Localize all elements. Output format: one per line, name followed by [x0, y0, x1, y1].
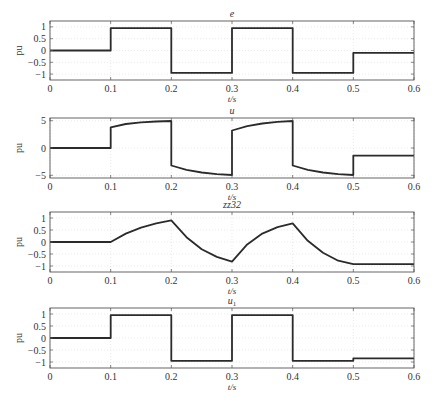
x-tick-label: 0.2	[165, 83, 178, 94]
y-tick-label: −0.5	[28, 345, 46, 356]
x-tick-label: 0.6	[408, 371, 421, 382]
y-tick-label: −1	[35, 261, 46, 272]
x-tick-label: 0.4	[286, 371, 299, 382]
x-tick-label: 0.5	[347, 275, 360, 286]
y-tick-label: 0.5	[34, 225, 47, 236]
y-axis-label: pu	[13, 143, 24, 153]
y-tick-label: 1	[41, 309, 46, 320]
y-tick-label: 0	[41, 143, 46, 154]
y-tick-label: −0.5	[28, 249, 46, 260]
figure: 00.10.20.30.40.50.610.50−0.5−1et/spu00.1…	[0, 0, 437, 405]
y-axis-label: pu	[13, 333, 24, 343]
y-tick-label: 0	[41, 45, 46, 56]
y-tick-label: 1	[41, 21, 46, 32]
y-tick-label: 0.5	[34, 321, 47, 332]
x-tick-label: 0.1	[104, 371, 117, 382]
x-tick-label: 0.3	[226, 371, 239, 382]
x-tick-label: 0.5	[347, 181, 360, 192]
x-tick-label: 0.2	[165, 371, 178, 382]
y-tick-label: 1	[41, 213, 46, 224]
x-tick-label: 0.3	[226, 275, 239, 286]
x-tick-label: 0	[48, 275, 53, 286]
x-tick-label: 0.2	[165, 275, 178, 286]
x-tick-label: 0	[48, 181, 53, 192]
y-tick-label: −5	[35, 170, 46, 181]
y-tick-label: −0.5	[28, 57, 46, 68]
x-axis-label: t/s	[228, 382, 237, 392]
x-tick-label: 0.1	[104, 275, 117, 286]
y-axis-label: pu	[13, 46, 24, 56]
x-tick-label: 0.4	[286, 275, 299, 286]
x-tick-label: 0.3	[226, 181, 239, 192]
x-tick-label: 0.5	[347, 371, 360, 382]
y-tick-label: −1	[35, 69, 46, 80]
subplot-title: zz32	[222, 199, 241, 210]
x-tick-label: 0.2	[165, 181, 178, 192]
x-tick-label: 0.4	[286, 181, 299, 192]
subplot-title: e	[230, 8, 235, 19]
x-axis-label: t/s	[228, 94, 237, 104]
y-tick-label: 0	[41, 333, 46, 344]
subplot-title: u1	[228, 295, 237, 308]
x-tick-label: 0.3	[226, 83, 239, 94]
x-tick-label: 0.6	[408, 275, 421, 286]
subplot-title: u	[230, 105, 235, 116]
x-tick-label: 0.4	[286, 83, 299, 94]
y-tick-label: 5	[41, 115, 46, 126]
x-tick-label: 0	[48, 371, 53, 382]
x-tick-label: 0.6	[408, 83, 421, 94]
x-tick-label: 0.5	[347, 83, 360, 94]
y-tick-label: 0	[41, 237, 46, 248]
x-tick-label: 0.1	[104, 83, 117, 94]
y-tick-label: 0.5	[34, 33, 47, 44]
x-tick-label: 0.6	[408, 181, 421, 192]
y-tick-label: −1	[35, 357, 46, 368]
x-tick-label: 0	[48, 83, 53, 94]
y-axis-label: pu	[13, 237, 24, 247]
x-tick-label: 0.1	[104, 181, 117, 192]
